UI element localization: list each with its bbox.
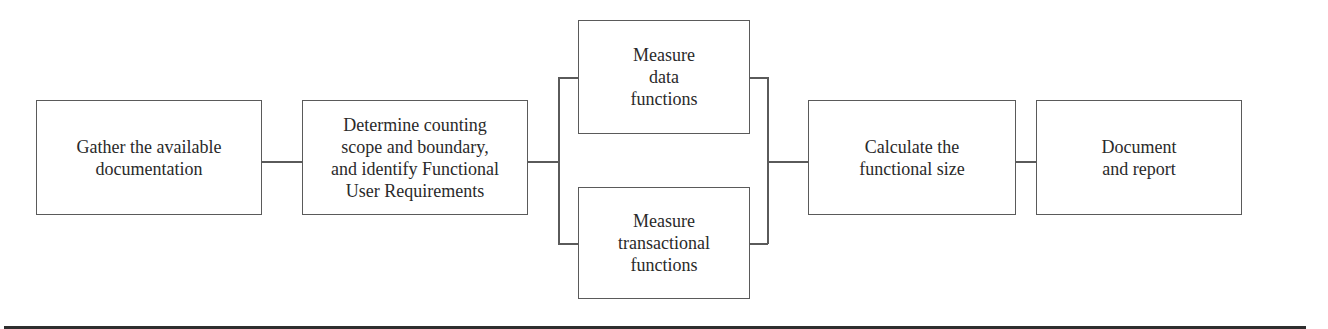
connector-branch-measure-trans — [558, 243, 578, 245]
connector-measure-trans-merge — [750, 243, 768, 245]
connector-measure-data-merge — [750, 77, 768, 79]
step-label: Gather the available documentation — [77, 136, 222, 180]
connector-branch-measure-data — [558, 77, 578, 79]
step-determine-scope: Determine counting scope and boundary, a… — [302, 100, 528, 215]
step-label: Determine counting scope and boundary, a… — [331, 114, 499, 202]
step-calculate-functional-size: Calculate the functional size — [808, 100, 1016, 215]
connector-calculate-document — [1016, 161, 1036, 163]
connector-gather-determine — [262, 161, 302, 163]
step-measure-data-functions: Measure data functions — [578, 20, 750, 134]
step-measure-transactional-functions: Measure transactional functions — [578, 187, 750, 299]
step-gather-documentation: Gather the available documentation — [36, 100, 262, 215]
connector-determine-branch — [528, 161, 559, 163]
connector-left-branch-vertical — [558, 77, 560, 244]
step-document-report: Document and report — [1036, 100, 1242, 215]
connector-merge-calculate — [767, 161, 808, 163]
step-label: Document and report — [1102, 136, 1177, 180]
step-label: Calculate the functional size — [859, 136, 964, 180]
step-label: Measure transactional functions — [618, 210, 710, 276]
step-label: Measure data functions — [631, 44, 698, 110]
